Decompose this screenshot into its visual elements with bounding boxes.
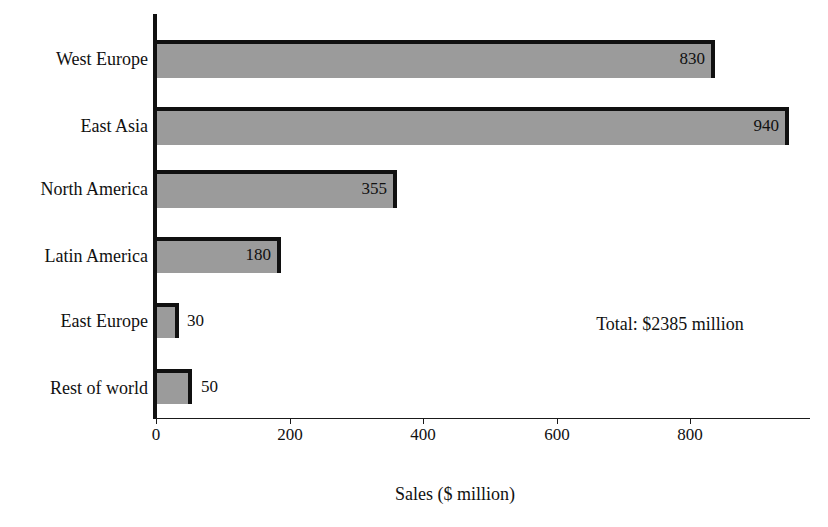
tick-mark-800: [690, 418, 691, 424]
bar-row: 940: [156, 107, 790, 145]
tick-label-600: 600: [527, 425, 587, 445]
tick-mark-0: [156, 418, 157, 424]
category-label-east-europe: East Europe: [0, 310, 148, 332]
tick-label-0: 0: [126, 425, 186, 445]
bar-value-rest-of-world: 50: [201, 378, 261, 396]
bar-value-west-europe: 830: [645, 50, 705, 68]
bar-row: 180: [156, 237, 282, 273]
bar-value-east-asia: 940: [719, 117, 779, 135]
bar-west-europe[interactable]: [156, 40, 715, 78]
tick-label-400: 400: [393, 425, 453, 445]
category-label-rest-of-world: Rest of world: [0, 377, 148, 399]
tick-mark-600: [557, 418, 558, 424]
bar-row: 30: [156, 303, 180, 338]
bar-east-asia[interactable]: [156, 107, 789, 145]
bar-chart: West Europe East Asia North America Lati…: [0, 0, 828, 527]
tick-mark-200: [290, 418, 291, 424]
category-axis-line: [153, 14, 157, 419]
bar-value-north-america: 355: [327, 180, 387, 198]
total-annotation: Total: $2385 million: [560, 313, 780, 335]
category-label-latin-america: Latin America: [0, 245, 148, 267]
bar-row: 355: [156, 170, 398, 208]
bar-east-europe[interactable]: [156, 303, 179, 338]
x-axis-title: Sales ($ million): [345, 483, 565, 505]
tick-mark-400: [423, 418, 424, 424]
bar-row: 50: [156, 369, 193, 404]
category-label-west-europe: West Europe: [0, 48, 148, 70]
tick-label-800: 800: [660, 425, 720, 445]
plot-area: West Europe East Asia North America Lati…: [0, 0, 828, 527]
bar-value-latin-america: 180: [211, 246, 271, 264]
category-label-north-america: North America: [0, 178, 148, 200]
value-axis-line: [156, 418, 810, 419]
category-label-east-asia: East Asia: [0, 115, 148, 137]
bar-row: 830: [156, 40, 716, 78]
bar-value-east-europe: 30: [187, 312, 247, 330]
tick-label-200: 200: [260, 425, 320, 445]
bar-rest-of-world[interactable]: [156, 369, 192, 404]
